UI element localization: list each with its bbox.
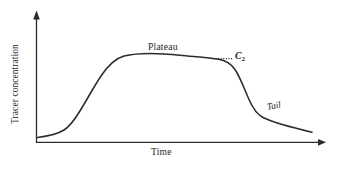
x-axis-arrow-icon [318,139,326,146]
c2-annotation: C2 [235,51,245,63]
y-axis-label: Tracer concentration [8,28,24,140]
tracer-concentration-curve [38,54,313,138]
c2-subscript: 2 [242,55,246,63]
plot-canvas [0,0,339,170]
y-axis-arrow-icon [33,11,40,20]
tracer-concentration-figure: Tracer concentration Time Plateau C2 Tai… [0,0,339,170]
plateau-annotation: Plateau [148,42,178,52]
x-axis-label: Time [151,147,172,157]
y-axis-label-text: Tracer concentration [11,44,20,124]
